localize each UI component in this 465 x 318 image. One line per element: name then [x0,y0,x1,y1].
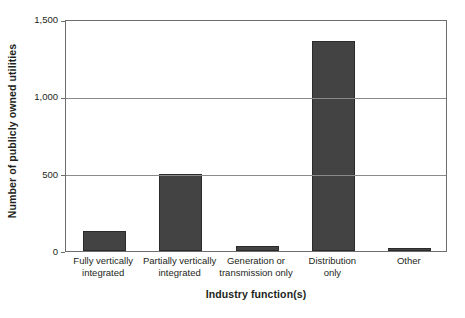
gridline [66,98,446,99]
y-axis-tick-mark [61,175,65,176]
y-axis-tick-label: 1,500 [34,15,58,25]
bar[interactable] [159,174,202,251]
y-axis-tick-labels: 05001,0001,500 [22,0,62,262]
x-axis-tick-labels: Fully verticallyintegratedPartially vert… [65,255,447,287]
gridline [66,175,446,176]
y-axis-tick-label: 1,000 [34,92,58,102]
bar[interactable] [388,248,431,251]
x-axis-tick-label-line: Other [364,255,454,267]
x-axis-title: Industry function(s) [65,288,447,300]
y-axis-tick-label: 500 [42,170,58,180]
bar-chart: Number of publicly owned utilities 05001… [0,0,465,318]
plot-area [65,20,447,252]
x-axis-tick-label: Other [364,255,454,267]
y-axis-title: Number of publicly owned utilities [0,0,24,262]
bars-layer [66,21,446,251]
y-axis-tick-mark [61,252,65,253]
bar[interactable] [236,246,279,251]
y-axis-title-text: Number of publicly owned utilities [6,44,18,218]
bar[interactable] [83,231,126,251]
y-axis-tick-mark [61,21,65,22]
bar[interactable] [312,41,355,251]
y-axis-tick-mark [61,98,65,99]
x-axis-tick-label-line: only [287,267,377,279]
